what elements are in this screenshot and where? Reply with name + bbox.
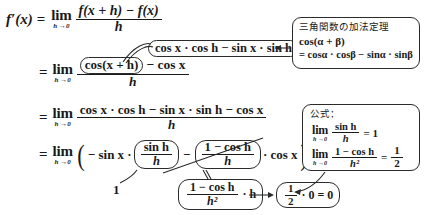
formula2-numerator: 1 − cos h bbox=[332, 146, 377, 157]
callout-expansion-text: cos x · cos h − sin x · sin h bbox=[155, 41, 292, 56]
formula1-lim-subscript: h →0 bbox=[313, 136, 327, 142]
line4-lim-subscript: h →0 bbox=[55, 159, 71, 166]
line2-boxed-cos-sum: cos(x + h) bbox=[80, 57, 144, 74]
callout-rewrite-fraction: 1 − cos h h² bbox=[187, 181, 238, 207]
callout-result-half-numerator: 1 bbox=[285, 183, 297, 195]
callout-result-half-denominator: 2 bbox=[285, 195, 297, 208]
line4-term1: − sin x · bbox=[88, 147, 132, 163]
formula1-lim-label: lim bbox=[312, 124, 328, 136]
line2-denominator: h bbox=[77, 74, 189, 89]
line3-fraction: cos x · cos h − sin x · sin h − cos x h bbox=[77, 103, 267, 131]
line2-numerator: cos(x + h) − cos x bbox=[77, 57, 189, 74]
note-formula-2: lim h →0 1 − cos h h² = 1 2 bbox=[310, 145, 405, 169]
line1-lim-subscript: h →0 bbox=[53, 23, 69, 30]
note-formulas-title: 公式： bbox=[310, 108, 412, 120]
formula1-denominator: h bbox=[332, 132, 359, 144]
line4-frac1-denominator: h bbox=[141, 154, 172, 168]
note-formula-1: lim h →0 sin h h = 1 bbox=[310, 121, 378, 144]
line4-fraction-2: 1 − cos h h bbox=[202, 141, 254, 168]
derivation-line-1: f′(x) = lim h →0 f(x + h) − f(x) h bbox=[6, 4, 164, 34]
callout-rewrite-times-h: · h bbox=[243, 187, 257, 202]
callout-rewrite-numerator: 1 − cos h bbox=[187, 181, 238, 194]
line4-lim-label: lim bbox=[53, 144, 73, 159]
callout-result-half: 1 2 bbox=[285, 183, 297, 207]
line4-frac2-denominator: h bbox=[202, 154, 254, 168]
derivation-line-4: = lim h →0 ( − sin x · sin h h − 1 − cos… bbox=[38, 140, 309, 169]
line3-limit-operator: lim h →0 bbox=[53, 106, 73, 128]
callout-rewrite: 1 − cos h h² · h bbox=[178, 179, 263, 210]
note-addition-theorem: 三角関数の加法定理 cos(α + β) = cosα · cosβ − sin… bbox=[292, 17, 420, 69]
formula2-value-numerator: 1 bbox=[391, 145, 403, 157]
line4-fraction-1: sin h h bbox=[141, 141, 172, 168]
line2-lim-label: lim bbox=[53, 62, 73, 77]
leader-frac-to-rewrite-2 bbox=[206, 170, 211, 179]
formula1-numerator: sin h bbox=[332, 121, 359, 132]
derivation-line-3: = lim h →0 cos x · cos h − sin x · sin h… bbox=[38, 103, 268, 131]
formula2-fraction: 1 − cos h h² bbox=[332, 146, 377, 169]
line3-lim-label: lim bbox=[53, 106, 73, 121]
annotation-limit-equals-one: 1 bbox=[113, 182, 120, 198]
line2-numerator-rest: − cos x bbox=[146, 58, 185, 72]
formula1-limit-operator: lim h →0 bbox=[312, 124, 328, 142]
line4-frac2-numerator: 1 − cos h bbox=[202, 141, 254, 154]
line3-denominator: h bbox=[77, 117, 267, 132]
callout-result-rest: · 0 = 0 bbox=[302, 188, 334, 203]
formula2-lim-subscript: h →0 bbox=[313, 160, 327, 166]
math-derivation-page: f′(x) = lim h →0 f(x + h) − f(x) h = lim… bbox=[0, 0, 424, 215]
line4-term2: · cos x bbox=[263, 147, 298, 163]
derivation-line-2: = lim h →0 cos(x + h) − cos x h bbox=[38, 57, 191, 89]
capsule-sinh-over-h: sin h h bbox=[134, 140, 179, 169]
formula2-value-denominator: 2 bbox=[391, 157, 403, 170]
callout-expansion: cos x · cos h − sin x · sin h bbox=[148, 40, 299, 57]
callout-result: 1 2 · 0 = 0 bbox=[276, 182, 340, 208]
formula2-equals: = bbox=[381, 151, 387, 163]
note-formulas: 公式： lim h →0 sin h h = 1 lim h →0 1 − co… bbox=[302, 104, 420, 171]
line1-limit-operator: lim h →0 bbox=[51, 8, 71, 30]
formula2-value-fraction: 1 2 bbox=[391, 145, 403, 169]
leader-frac-to-rewrite bbox=[203, 170, 208, 179]
line1-fraction: f(x + h) − f(x) h bbox=[76, 4, 162, 34]
line1-numerator: f(x + h) − f(x) bbox=[76, 4, 162, 19]
line1-equals: = bbox=[36, 11, 47, 28]
line1-lim-label: lim bbox=[51, 8, 71, 23]
note-addition-theorem-line1: cos(α + β) bbox=[299, 34, 413, 48]
capsule-one-minus-cosh-over-h: 1 − cos h h bbox=[195, 140, 261, 169]
line4-minus: − bbox=[182, 147, 191, 163]
formula1-equals-value: = 1 bbox=[363, 127, 378, 139]
line1-denominator: h bbox=[76, 19, 162, 35]
line1-lhs: f′(x) bbox=[6, 11, 33, 28]
line3-equals: = bbox=[38, 109, 49, 126]
note-addition-theorem-title: 三角関数の加法定理 bbox=[299, 21, 413, 33]
line2-fraction: cos(x + h) − cos x h bbox=[77, 57, 189, 89]
leader-sinh-to-one bbox=[120, 170, 137, 183]
formula2-denominator: h² bbox=[332, 157, 377, 169]
arrowhead-rewrite-to-result bbox=[268, 192, 274, 198]
note-addition-theorem-line2: = cosα · cosβ − sinα · sinβ bbox=[299, 48, 413, 62]
line4-frac1-numerator: sin h bbox=[141, 141, 172, 154]
formula2-limit-operator: lim h →0 bbox=[312, 148, 328, 166]
line2-equals: = bbox=[38, 64, 49, 81]
line4-limit-operator: lim h →0 bbox=[53, 144, 73, 166]
line4-equals: = bbox=[38, 146, 49, 163]
line4-open-paren: ( bbox=[77, 143, 85, 167]
callout-rewrite-denominator: h² bbox=[187, 194, 238, 208]
line2-limit-operator: lim h →0 bbox=[53, 62, 73, 84]
formula1-fraction: sin h h bbox=[332, 121, 359, 144]
line3-lim-subscript: h →0 bbox=[55, 121, 71, 128]
line3-numerator: cos x · cos h − sin x · sin h − cos x bbox=[77, 103, 267, 117]
line2-lim-subscript: h →0 bbox=[55, 77, 71, 84]
formula2-lim-label: lim bbox=[312, 148, 328, 160]
